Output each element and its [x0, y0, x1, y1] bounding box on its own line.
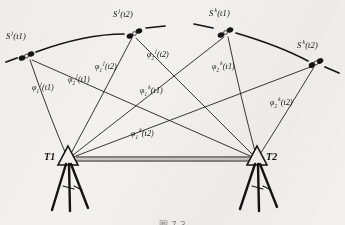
satellite-label-sk-t1: S k(t1) — [209, 9, 230, 18]
figure-caption: 图 7-3 — [0, 218, 345, 225]
ray-t1-sj-t1 — [30, 60, 68, 159]
satellite-icon-sj-t2 — [126, 27, 143, 39]
orbit-arc-sk-head — [194, 24, 213, 28]
ray-t1-sj-t2 — [68, 38, 132, 159]
phase-label-phi1-j-t2: φ1 j(t2) — [95, 63, 117, 71]
station-label-t2: T2 — [266, 152, 277, 162]
phase-label-phi1-k-t1: φ1 k(t1) — [140, 87, 163, 95]
satellite-label-sj-t1: S j(t1) — [6, 32, 26, 41]
station-label-t1: T1 — [44, 152, 55, 162]
orbit-arc-left-tail — [6, 58, 17, 62]
satellite-label-sj-t2: S j(t2) — [113, 10, 133, 19]
orbit-arc-sj-tail — [146, 26, 165, 28]
diagram-drawing — [0, 0, 345, 225]
phase-label-phi2-j-t1: φ2 j(t1) — [68, 76, 90, 84]
station-marker-t1 — [52, 146, 88, 211]
ray-t1-sk-t2 — [68, 66, 313, 159]
phase-label-phi1-j-t1: φ1 j(t1) — [32, 84, 54, 92]
ray-t2-sk-t2 — [257, 67, 314, 159]
orbit-arc-sj — [36, 34, 124, 52]
satellite-icon-sk-t1 — [217, 26, 234, 38]
ray-t2-sk-t1 — [228, 37, 257, 159]
ray-t2-sj-t1 — [32, 60, 257, 159]
phase-label-phi1-k-t2: φ1 k(t2) — [131, 130, 154, 138]
orbit-arc-group — [6, 24, 339, 73]
figure-canvas: S j(t1) S j(t2) S k(t1) S k(t2) φ1 j(t1)… — [0, 0, 345, 225]
satellite-label-sk-t2: S k(t2) — [297, 41, 318, 50]
satellite-icon-sk-t2 — [308, 57, 324, 69]
phase-label-phi2-k-t2: φ2 k(t2) — [270, 99, 293, 107]
phase-label-phi2-k-t1: φ2 k(t1) — [212, 63, 235, 71]
ray-t1-sk-t1 — [68, 37, 224, 159]
phase-label-phi2-j-t2: φ2 j(t2) — [147, 51, 169, 59]
baseline-t1-t2 — [76, 157, 250, 161]
orbit-arc-right-tail — [325, 67, 339, 73]
